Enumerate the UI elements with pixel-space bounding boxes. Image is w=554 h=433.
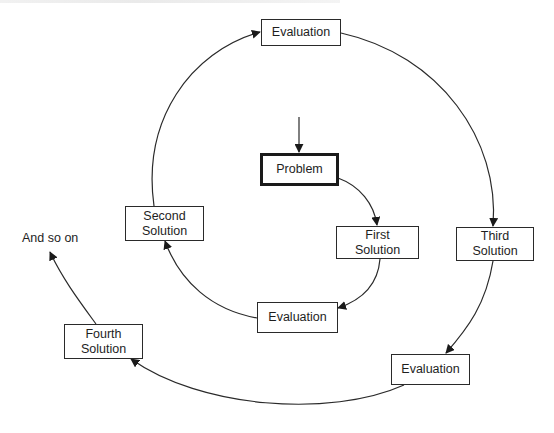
third-solution-line1: Third bbox=[481, 229, 509, 244]
arrow-evaluation-to-third-solution bbox=[341, 33, 494, 226]
third-solution-box: Third Solution bbox=[456, 227, 534, 261]
first-solution-box: First Solution bbox=[336, 226, 419, 259]
arrow-evaluation-to-second-solution bbox=[165, 241, 257, 318]
evaluation-box-top: Evaluation bbox=[261, 19, 341, 46]
arrow-problem-to-first-solution bbox=[338, 178, 377, 225]
evaluation-label: Evaluation bbox=[272, 25, 330, 40]
arrow-second-solution-to-evaluation bbox=[152, 32, 260, 206]
arrow-third-solution-to-evaluation bbox=[446, 261, 493, 353]
spiral-diagram: Evaluation Problem Second Solution First… bbox=[0, 0, 554, 433]
arrow-evaluation-to-fourth-solution bbox=[131, 359, 404, 404]
third-solution-line2: Solution bbox=[472, 244, 517, 259]
and-so-on-label: And so on bbox=[22, 231, 78, 245]
problem-box: Problem bbox=[260, 153, 339, 186]
fourth-solution-box: Fourth Solution bbox=[64, 324, 143, 359]
problem-label: Problem bbox=[276, 162, 323, 177]
evaluation-box-bottom: Evaluation bbox=[391, 354, 470, 385]
second-solution-box: Second Solution bbox=[125, 206, 204, 241]
second-solution-line2: Solution bbox=[142, 224, 187, 239]
first-solution-line2: Solution bbox=[355, 243, 400, 258]
arrow-first-solution-to-evaluation bbox=[338, 259, 380, 308]
evaluation-box-middle: Evaluation bbox=[257, 302, 338, 333]
evaluation-label: Evaluation bbox=[401, 362, 459, 377]
connector-arrows bbox=[0, 0, 554, 433]
second-solution-line1: Second bbox=[143, 209, 185, 224]
arrow-fourth-solution-to-and-so-on bbox=[50, 252, 96, 324]
fourth-solution-line1: Fourth bbox=[85, 327, 121, 342]
evaluation-label: Evaluation bbox=[268, 310, 326, 325]
first-solution-line1: First bbox=[365, 228, 389, 243]
fourth-solution-line2: Solution bbox=[81, 342, 126, 357]
